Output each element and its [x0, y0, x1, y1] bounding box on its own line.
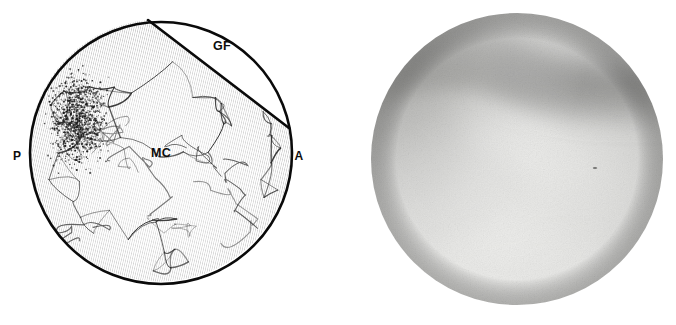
stipple-dot [95, 130, 97, 132]
stipple-dot [45, 113, 47, 115]
stipple-dot [86, 119, 87, 120]
stipple-dot [84, 98, 85, 99]
stipple-dot [87, 142, 89, 144]
stipple-dot [77, 97, 79, 99]
stipple-dot [67, 110, 69, 112]
stipple-dot [81, 142, 83, 144]
stipple-dot [75, 125, 76, 126]
stipple-dot [67, 83, 68, 84]
stipple-dot [93, 119, 94, 120]
stipple-dot [92, 118, 93, 119]
stipple-dot [88, 147, 89, 148]
stipple-dot [86, 156, 88, 158]
stipple-dot [63, 90, 65, 92]
stipple-dot [99, 168, 100, 169]
stipple-dot [75, 107, 76, 108]
stipple-dot [59, 106, 61, 108]
stipple-dot [67, 153, 69, 155]
stipple-dot [94, 139, 96, 141]
stipple-dot [85, 147, 86, 148]
stipple-dot [59, 100, 60, 101]
stipple-dot [80, 105, 81, 106]
stipple-dot [84, 99, 86, 101]
stipple-dot [62, 106, 64, 108]
stipple-dot [101, 130, 102, 131]
stipple-dot [70, 147, 72, 149]
stipple-dot [94, 148, 95, 149]
stipple-dot [81, 154, 82, 155]
stipple-dot [71, 100, 73, 102]
stipple-dot [71, 88, 72, 89]
stipple-dot [92, 98, 93, 99]
stipple-dot [59, 95, 60, 96]
stipple-dot [51, 116, 53, 118]
stipple-dot [97, 121, 98, 122]
photo-film-grain [340, 0, 676, 325]
stipple-dot [81, 84, 82, 85]
stipple-dot [96, 101, 98, 103]
stipple-dot [58, 120, 60, 122]
stipple-dot [69, 124, 71, 126]
stipple-dot [64, 121, 65, 122]
stipple-dot [79, 86, 80, 87]
stipple-dot [72, 143, 73, 144]
stipple-dot [60, 103, 61, 104]
stipple-dot [77, 129, 78, 130]
stipple-dot [74, 91, 76, 93]
stipple-dot [77, 140, 78, 141]
stipple-dot [107, 150, 109, 152]
stipple-dot [97, 117, 98, 118]
stipple-dot [54, 126, 55, 127]
stipple-dot [85, 143, 86, 144]
stipple-dot [59, 152, 61, 154]
stipple-dot [74, 140, 75, 141]
stipple-dot [88, 99, 90, 101]
stipple-dot [64, 135, 66, 137]
stipple-dot [69, 68, 71, 70]
stipple-dot [83, 117, 84, 118]
stipple-dot [83, 92, 84, 93]
stipple-dot [97, 98, 98, 99]
stipple-dot [74, 129, 76, 131]
stipple-dot [95, 94, 97, 96]
stipple-dot [91, 102, 92, 103]
stipple-dot [100, 124, 101, 125]
stipple-dot [56, 87, 58, 89]
stipple-dot [91, 135, 92, 136]
stipple-dot [93, 132, 94, 133]
stipple-dot [81, 144, 82, 145]
stipple-dot [74, 164, 75, 165]
stipple-dot [86, 95, 87, 96]
stipple-dot [84, 107, 85, 108]
stipple-dot [78, 155, 80, 157]
stipple-dot [87, 137, 89, 139]
stipple-dot [53, 147, 54, 148]
stipple-dot [86, 103, 88, 105]
stipple-dot [78, 69, 80, 71]
stipple-dot [107, 107, 108, 108]
stipple-dot [69, 115, 70, 116]
stipple-dot [72, 162, 73, 163]
stipple-dot [89, 96, 90, 97]
stipple-dot [55, 99, 57, 101]
stipple-dot [93, 89, 95, 91]
stipple-dot [86, 92, 87, 93]
stipple-dot [90, 122, 91, 123]
stipple-dot [58, 123, 60, 125]
stipple-dot [84, 110, 85, 111]
stipple-dot [60, 93, 62, 95]
stipple-dot [65, 84, 66, 85]
stipple-dot [67, 162, 68, 163]
stipple-dot [74, 137, 75, 138]
stipple-dot [59, 163, 60, 164]
stipple-dot [49, 101, 51, 103]
stipple-dot [66, 136, 67, 137]
stipple-dot [53, 114, 54, 115]
stipple-dot [75, 120, 76, 121]
stipple-dot [69, 121, 70, 122]
stipple-dot [81, 151, 82, 152]
stipple-dot [103, 90, 104, 91]
stipple-dot [78, 138, 80, 140]
stipple-dot [89, 140, 90, 141]
stipple-dot [76, 134, 77, 135]
